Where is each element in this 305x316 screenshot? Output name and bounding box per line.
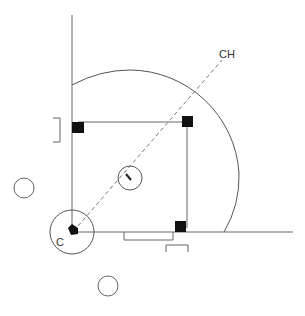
runner-lane-bracket [124, 232, 173, 240]
on-deck-circle-left [14, 178, 34, 198]
infield-arc [72, 70, 239, 232]
home-plate [68, 224, 78, 235]
second-base [182, 116, 193, 127]
baseball-field-diagram: C CH [0, 0, 305, 316]
on-deck-circle-bottom [98, 276, 118, 296]
third-base [72, 122, 84, 133]
first-base [175, 221, 186, 232]
dashed-line-home-to-center [78, 60, 222, 226]
center-direction-label: CH [219, 48, 235, 60]
first-base-coach-box [166, 245, 188, 252]
pitcher-rubber-icon [126, 174, 131, 180]
catcher-label: C [56, 236, 64, 248]
third-base-coach-box [53, 118, 60, 142]
